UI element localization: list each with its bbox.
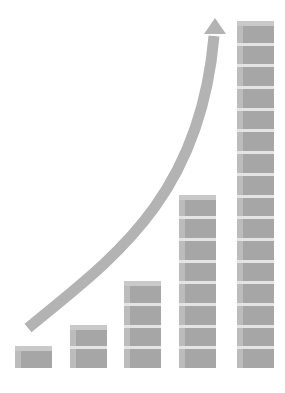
cube-block [237, 216, 274, 238]
cube-block [237, 64, 274, 86]
cube-block [124, 346, 161, 368]
cube-block [237, 21, 274, 43]
cube-block [179, 325, 216, 347]
cube-block [237, 325, 274, 347]
growth-illustration [0, 0, 285, 393]
cube-block [179, 260, 216, 282]
cube-column-1 [15, 346, 52, 368]
cube-column-3 [124, 281, 161, 368]
cube-block [237, 281, 274, 303]
cube-block [237, 260, 274, 282]
cube-block [124, 281, 161, 303]
cube-block [237, 195, 274, 217]
cube-block [70, 325, 107, 347]
cube-block [70, 346, 107, 368]
cube-block [124, 325, 161, 347]
cube-column-4 [179, 195, 216, 369]
cube-block [237, 86, 274, 108]
cube-block [179, 195, 216, 217]
cube-block [237, 108, 274, 130]
cube-block [237, 129, 274, 151]
cube-block [237, 346, 274, 368]
cube-block [237, 303, 274, 325]
cube-column-2 [70, 325, 107, 368]
cube-block [179, 238, 216, 260]
cube-block [237, 238, 274, 260]
cube-block [179, 303, 216, 325]
cube-block [237, 43, 274, 65]
cube-block [124, 303, 161, 325]
cube-block [237, 173, 274, 195]
cube-block [15, 346, 52, 368]
cube-block [179, 216, 216, 238]
cube-column-5 [237, 21, 274, 368]
cube-block [179, 346, 216, 368]
cube-block [179, 281, 216, 303]
cube-block [237, 151, 274, 173]
